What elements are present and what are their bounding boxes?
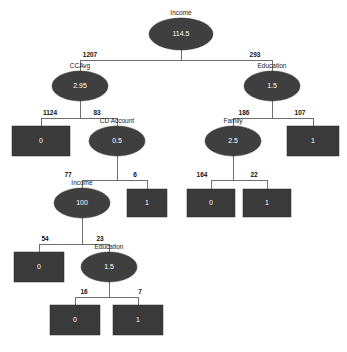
edge-count-label: 186 (239, 109, 250, 116)
leaf-class-value: 1 (136, 316, 140, 323)
edge-count-label: 83 (93, 109, 101, 116)
leaf-class-value: 0 (73, 316, 77, 323)
node-threshold-value: 1.5 (104, 263, 114, 270)
node-feature-label: Income (71, 179, 93, 186)
leaf-class-value: 0 (39, 137, 43, 144)
node-threshold-value: 114.5 (173, 30, 190, 37)
edge-count-label: 6 (133, 171, 137, 178)
leaf-node[interactable]: 0 (12, 126, 70, 156)
edge-count-label: 22 (250, 171, 258, 178)
leaf-class-value: 0 (37, 263, 41, 270)
leaf-node[interactable]: 1 (287, 126, 339, 156)
leaf-node[interactable]: 0 (14, 252, 64, 282)
leaf-class-value: 1 (145, 199, 149, 206)
edge-count-label: 164 (197, 171, 208, 178)
edge-count-label: 16 (80, 288, 88, 295)
node-feature-label: Education (95, 243, 124, 250)
node-feature-label: CD Account (100, 117, 135, 124)
leaf-class-value: 1 (265, 199, 269, 206)
decision-node[interactable]: Income100 (54, 179, 110, 218)
node-threshold-value: 0.5 (112, 137, 122, 144)
edge-count-label: 7 (138, 288, 142, 295)
node-threshold-value: 1.5 (267, 82, 277, 89)
edge-count-label: 1124 (43, 109, 57, 116)
decision-node[interactable]: CD Account0.5 (89, 117, 145, 156)
edge-count-label: 54 (41, 235, 49, 242)
node-feature-label: Family (223, 117, 243, 125)
edge-count-label: 107 (295, 109, 306, 116)
leaf-class-value: 1 (311, 137, 315, 144)
node-feature-label: CCAvg (70, 62, 91, 70)
node-feature-label: Income (170, 9, 192, 16)
node-layer: Income114.5CCAvg2.95Education1.50CD Acco… (12, 9, 339, 335)
decision-node[interactable]: CCAvg2.95 (52, 62, 108, 101)
decision-node[interactable]: Income114.5 (149, 9, 213, 50)
edge-count-label: 1207 (83, 51, 98, 58)
tree-edge (117, 156, 147, 189)
decision-tree-diagram: Income114.5CCAvg2.95Education1.50CD Acco… (0, 0, 347, 352)
decision-node[interactable]: Family2.5 (205, 117, 261, 156)
node-threshold-value: 2.95 (73, 82, 87, 89)
node-threshold-value: 2.5 (228, 137, 238, 144)
tree-edge (211, 156, 233, 189)
tree-edge (272, 101, 313, 126)
edge-count-label: 293 (250, 51, 261, 58)
node-threshold-value: 100 (76, 199, 88, 206)
leaf-node[interactable]: 1 (243, 189, 291, 217)
leaf-class-value: 0 (209, 199, 213, 206)
tree-edge (109, 282, 138, 305)
leaf-node[interactable]: 1 (127, 189, 167, 217)
edge-count-label: 23 (96, 235, 104, 242)
decision-node[interactable]: Education1.5 (244, 62, 300, 101)
node-feature-label: Education (258, 62, 287, 69)
leaf-node[interactable]: 0 (187, 189, 235, 217)
decision-node[interactable]: Education1.5 (81, 243, 137, 282)
leaf-node[interactable]: 1 (113, 305, 163, 335)
leaf-node[interactable]: 0 (50, 305, 100, 335)
edge-count-label: 77 (64, 171, 72, 178)
